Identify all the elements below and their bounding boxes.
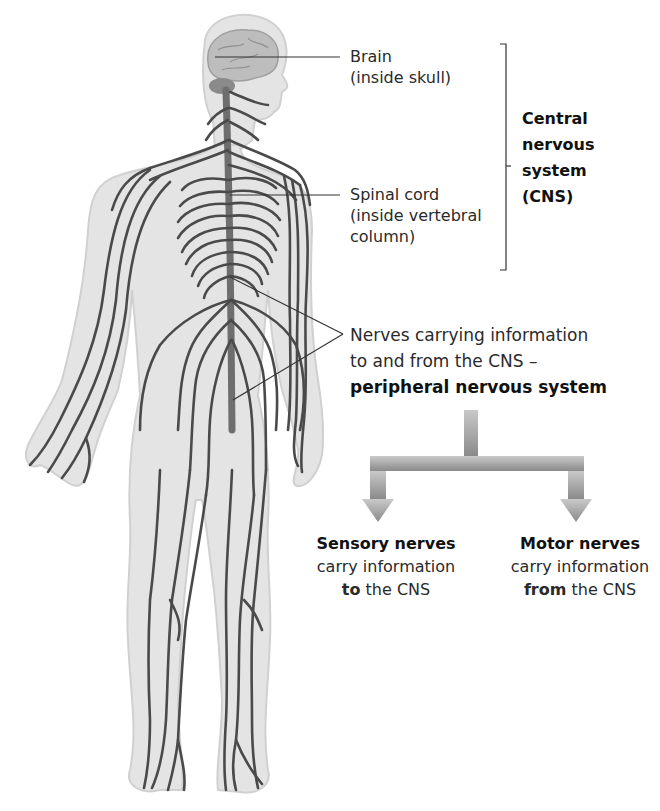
body-silhouette [26, 15, 323, 793]
brain-label: Brain (inside skull) [350, 46, 451, 88]
nervous-system-diagram: Brain (inside skull) Spinal cord (inside… [0, 0, 660, 811]
motor-nerves-label: Motor nerves carry information from the … [500, 532, 660, 601]
cns-label: Central nervous system (CNS) [522, 106, 594, 210]
pns-label: Nerves carrying information to and from … [350, 322, 607, 400]
sensory-nerves-label: Sensory nerves carry information to the … [306, 532, 466, 601]
branch-arrow [362, 410, 592, 522]
cns-bracket [500, 44, 511, 270]
spinal-cord-label: Spinal cord (inside vertebral column) [350, 184, 482, 247]
